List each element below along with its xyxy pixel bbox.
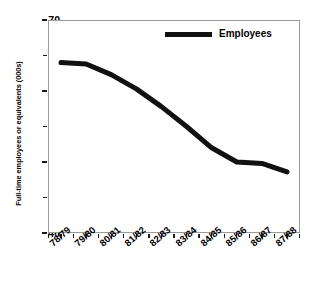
- x-tick-mark: [299, 234, 300, 238]
- y-tick-mark-60: [42, 90, 47, 92]
- employees-line-chart: Full-time employees or equivalents (000s…: [0, 0, 319, 281]
- y-tick-mark-40: [42, 232, 47, 234]
- chart-legend: Employees: [165, 29, 272, 39]
- y-tick-mark-55: [43, 126, 47, 128]
- y-tick-mark-65: [43, 55, 47, 57]
- y-tick-mark-70: [42, 19, 47, 21]
- plot-canvas: [48, 20, 300, 233]
- y-tick-mark-45: [43, 197, 47, 199]
- legend-label-employees: Employees: [219, 29, 272, 39]
- y-axis-title: Full-time employees or equivalents (000s…: [12, 27, 26, 240]
- y-tick-mark-50: [42, 161, 47, 163]
- series-line-employees: [61, 63, 287, 172]
- legend-swatch-employees: [165, 32, 212, 37]
